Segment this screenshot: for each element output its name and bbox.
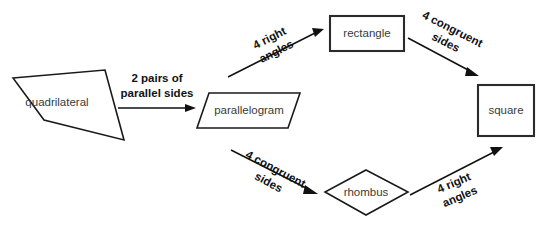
rhombus-label: rhombus [344, 186, 389, 198]
edge-rectangle-to-square: 4 congruent sides [408, 9, 485, 76]
node-square[interactable]: square [478, 85, 534, 136]
edge-rhombus-to-square: 4 right angles [410, 147, 503, 209]
quadrilateral-classification-diagram: quadrilateral parallelogram rectangle rh… [0, 0, 544, 231]
node-parallelogram[interactable]: parallelogram [197, 93, 300, 128]
node-quadrilateral[interactable]: quadrilateral [13, 70, 124, 140]
node-rectangle[interactable]: rectangle [330, 16, 404, 51]
arrow-head-icon [490, 147, 503, 156]
edge-parallelogram-to-rhombus: 4 congruent sides [231, 148, 318, 203]
edge-label-line1: 2 pairs of [131, 72, 182, 84]
arrow-head-icon [465, 67, 479, 76]
rectangle-label: rectangle [343, 27, 390, 39]
arrow-head-icon [303, 185, 318, 194]
arrow-head-icon [185, 104, 196, 112]
edge-label-line2: parallel sides [121, 87, 194, 99]
square-label: square [488, 104, 523, 116]
arrow-head-icon [312, 28, 324, 37]
parallelogram-label: parallelogram [214, 104, 284, 116]
edge-quadrilateral-to-parallelogram: 2 pairs of parallel sides [118, 72, 196, 112]
edge-parallelogram-to-rectangle: 4 right angles [228, 24, 324, 77]
node-rhombus[interactable]: rhombus [325, 170, 408, 215]
quadrilateral-label: quadrilateral [25, 96, 88, 108]
diagram-canvas: quadrilateral parallelogram rectangle rh… [0, 0, 544, 231]
